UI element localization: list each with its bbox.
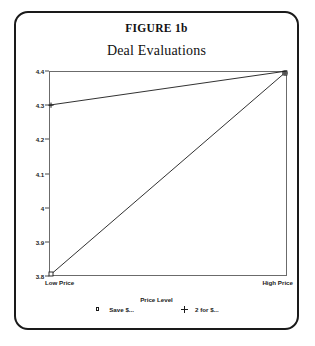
series-line [49,71,287,276]
series-line [49,71,287,105]
chart-legend: Save $...2 for $... [16,305,297,313]
series-save [49,71,287,276]
square-marker-icon [94,305,102,313]
legend-item[interactable]: Save $... [94,305,134,313]
x-axis-title: Price Level [16,296,297,303]
figure-frame: FIGURE 1b Deal Evaluations 4.44.34.24.14… [14,11,299,330]
series-2-for [48,70,287,107]
chart-data-layer [49,71,287,276]
y-tick-label: 4.2 [36,136,49,143]
legend-item[interactable]: 2 for $... [180,305,219,313]
plus-marker-icon [180,305,188,313]
y-tick-label: 4.1 [36,170,49,177]
legend-label: 2 for $... [195,306,219,313]
legend-label: Save $... [109,306,134,313]
data-point-marker [49,272,53,276]
y-tick-label: 4.4 [36,68,49,75]
plot-area: 4.44.34.24.143.93.8 Low PriceHigh Price [49,71,287,276]
chart-title: Deal Evaluations [16,43,297,59]
x-tick-label: High Price [262,279,293,286]
y-tick-label: 4 [41,204,49,211]
x-tick-label: Low Price [45,279,74,286]
y-tick-label: 4.3 [36,102,49,109]
figure-label: FIGURE 1b [16,22,297,34]
y-tick-label: 3.9 [36,238,49,245]
